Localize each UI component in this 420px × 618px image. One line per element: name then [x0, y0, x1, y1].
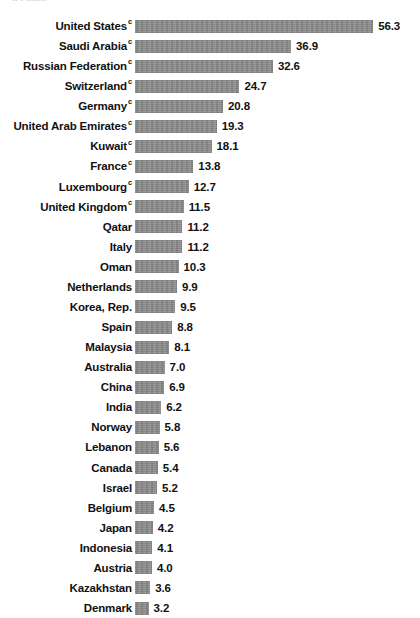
bar-row: United Statesc56.3 — [0, 16, 420, 36]
bar-value-label: 13.8 — [198, 156, 220, 176]
bar-value-label: 4.5 — [159, 498, 175, 518]
bar-value-label: 6.9 — [169, 377, 185, 397]
bar — [135, 40, 291, 53]
bar-category-label: Spain — [101, 317, 132, 337]
bar — [135, 200, 184, 213]
bar — [135, 321, 172, 334]
bar-category-label: Malaysia — [85, 337, 132, 357]
bar — [135, 521, 153, 534]
bar — [135, 561, 152, 574]
bar-row: Russian Federationc32.6 — [0, 56, 420, 76]
bar-row: Japan4.2 — [0, 518, 420, 538]
bar-value-label: 11.5 — [189, 197, 210, 217]
bar — [135, 300, 175, 313]
bar-row: Austria4.0 — [0, 558, 420, 578]
bar-value-label: 3.2 — [154, 598, 170, 618]
bar-category-label: Norway — [91, 417, 132, 437]
bar — [135, 180, 189, 193]
bar-category-label: Canada — [91, 458, 132, 478]
bar-value-label: 4.2 — [158, 518, 174, 538]
bar-row: India6.2 — [0, 397, 420, 417]
bar-value-label: 24.7 — [244, 76, 266, 96]
bar — [135, 80, 239, 93]
bar-category-label: United Arab Emiratesc — [13, 116, 132, 136]
bar-category-label: Japan — [100, 518, 133, 538]
bar-row: Saudi Arabiac36.9 — [0, 36, 420, 56]
bar-row: Switzerlandc24.7 — [0, 76, 420, 96]
footnote-marker: c — [128, 37, 132, 46]
bar — [135, 381, 164, 394]
bar-category-label: Francec — [90, 156, 132, 176]
footnote-marker: c — [128, 158, 132, 167]
bar-row: Belgium4.5 — [0, 498, 420, 518]
bar-category-label: Austria — [93, 558, 132, 578]
bar-category-label: Luxembourgc — [59, 177, 132, 197]
bar-row: Lebanon5.6 — [0, 437, 420, 457]
bar-value-label: 36.9 — [296, 36, 318, 56]
bar-row: Oman10.3 — [0, 257, 420, 277]
bar-category-label: Russian Federationc — [23, 56, 132, 76]
bar-category-label: Kuwaitc — [90, 136, 132, 156]
bar — [135, 140, 212, 153]
footnote-marker: c — [128, 118, 132, 127]
bar — [135, 581, 150, 594]
bar — [135, 401, 161, 414]
bar — [135, 120, 217, 133]
footnote-marker: c — [128, 138, 132, 147]
bar-row: Germanyc20.8 — [0, 96, 420, 116]
bar-value-label: 5.4 — [163, 458, 179, 478]
bar — [135, 220, 182, 233]
bar-row: Malaysia8.1 — [0, 337, 420, 357]
bar-row: United Arab Emiratesc19.3 — [0, 116, 420, 136]
bar — [135, 160, 193, 173]
bar-value-label: 18.1 — [217, 136, 239, 156]
bar-value-label: 4.1 — [157, 538, 173, 558]
footnote-marker: c — [128, 97, 132, 106]
bar-value-label: 7.0 — [170, 357, 186, 377]
bar — [135, 481, 157, 494]
bar — [135, 100, 223, 113]
bar-row: Kazakhstan3.6 — [0, 578, 420, 598]
bar — [135, 461, 158, 474]
bar-category-label: United Statesc — [55, 16, 132, 36]
bar-row: Netherlands9.9 — [0, 277, 420, 297]
bar-value-label: 3.6 — [155, 578, 171, 598]
footnote-marker: c — [128, 178, 132, 187]
bar-category-label: Oman — [100, 257, 132, 277]
bar — [135, 20, 373, 33]
bar-row: Francec13.8 — [0, 156, 420, 176]
bar-row: Indonesia4.1 — [0, 538, 420, 558]
bar — [135, 260, 179, 273]
bar-category-label: Netherlands — [67, 277, 132, 297]
bar — [135, 421, 160, 434]
bar-value-label: 5.2 — [162, 478, 178, 498]
bar-value-label: 20.8 — [228, 96, 250, 116]
bar-category-label: Switzerlandc — [65, 76, 132, 96]
bar-category-label: Indonesia — [80, 538, 132, 558]
bar — [135, 280, 177, 293]
footnote-marker: c — [128, 17, 132, 26]
bar-category-label: China — [101, 377, 132, 397]
bar — [135, 341, 169, 354]
bar — [135, 361, 165, 374]
bar — [135, 240, 182, 253]
bar-category-label: Saudi Arabiac — [59, 36, 132, 56]
bar-category-label: Belgium — [88, 498, 132, 518]
clipped-text-remnant: •• • ••••••• — [12, 0, 47, 3]
bar-row: United Kingdomc11.5 — [0, 197, 420, 217]
bar-value-label: 19.3 — [222, 116, 244, 136]
bar-row: Qatar11.2 — [0, 217, 420, 237]
bar-category-label: Germanyc — [78, 96, 132, 116]
bar-category-label: Denmark — [84, 598, 132, 618]
bar-value-label: 56.3 — [378, 16, 400, 36]
bar-category-label: Lebanon — [85, 437, 132, 457]
bar-value-label: 10.3 — [184, 257, 206, 277]
bar — [135, 541, 152, 554]
bar-value-label: 11.2 — [187, 217, 208, 237]
bar-row: Israel5.2 — [0, 478, 420, 498]
bar-category-label: Australia — [84, 357, 132, 377]
bar — [135, 441, 159, 454]
bar-value-label: 5.8 — [165, 417, 181, 437]
bar-value-label: 9.9 — [182, 277, 198, 297]
